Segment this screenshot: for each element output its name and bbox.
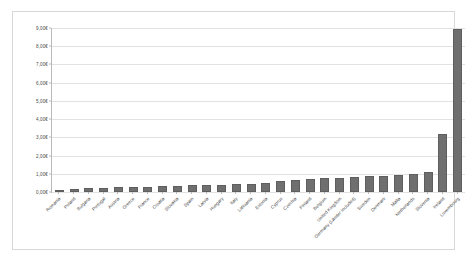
bar-slot [424, 28, 433, 192]
x-tick-mark [191, 192, 192, 194]
bar-slot [335, 28, 344, 192]
bar[interactable] [438, 134, 447, 192]
bar-slot [232, 28, 241, 192]
x-tick-mark [294, 192, 295, 194]
bar[interactable] [217, 185, 226, 192]
bar-slot [276, 28, 285, 192]
y-tick-label: 8,00€ [36, 44, 48, 49]
bar-slot [129, 28, 138, 192]
y-tick-label: 1,00€ [36, 171, 48, 176]
x-tick-mark [88, 192, 89, 194]
y-tick-label: 0,00€ [36, 190, 48, 195]
bar-slot [261, 28, 270, 192]
plot-area [51, 28, 465, 193]
bar[interactable] [335, 178, 344, 192]
bar-slot [409, 28, 418, 192]
caption-strip [150, 254, 320, 263]
bar[interactable] [424, 172, 433, 192]
bar-slot [114, 28, 123, 192]
bar-slot [247, 28, 256, 192]
bar-slot [453, 28, 462, 192]
bar[interactable] [291, 180, 300, 192]
x-tick-label: Poland [0, 196, 77, 267]
bar[interactable] [202, 185, 211, 192]
x-tick-mark [398, 192, 399, 194]
bar[interactable] [394, 175, 403, 192]
y-tick-label: 2,00€ [36, 153, 48, 158]
x-tick-mark [250, 192, 251, 194]
bar-slot [306, 28, 315, 192]
bar-slot [438, 28, 447, 192]
bar-slot [365, 28, 374, 192]
x-tick-mark [206, 192, 207, 194]
y-tick-label: 9,00€ [36, 26, 48, 31]
x-tick-mark [442, 192, 443, 194]
x-tick-mark [265, 192, 266, 194]
x-tick-mark [103, 192, 104, 194]
y-tick-label: 4,00€ [36, 117, 48, 122]
x-axis: RomaniaPolandBulgariaPortugalAustriaGree… [51, 194, 465, 262]
bar[interactable] [276, 181, 285, 192]
bar-slot [143, 28, 152, 192]
y-axis: 0,00€1,00€2,00€3,00€4,00€5,00€6,00€7,00€… [25, 28, 51, 193]
bar-slot [291, 28, 300, 192]
x-tick-mark [412, 192, 413, 194]
x-tick-mark [235, 192, 236, 194]
x-tick-mark [117, 192, 118, 194]
y-tick-label: 7,00€ [36, 62, 48, 67]
bar[interactable] [365, 176, 374, 192]
chart-frame: 0,00€1,00€2,00€3,00€4,00€5,00€6,00€7,00€… [12, 11, 455, 250]
bar-slot [70, 28, 79, 192]
x-tick-mark [353, 192, 354, 194]
bar-slot [173, 28, 182, 192]
bar-slot [84, 28, 93, 192]
bars-series [52, 28, 465, 192]
bar-slot [158, 28, 167, 192]
bar[interactable] [232, 184, 241, 192]
y-tick-label: 5,00€ [36, 98, 48, 103]
bar-slot [350, 28, 359, 192]
bar[interactable] [379, 176, 388, 192]
bar[interactable] [409, 174, 418, 192]
gridline [52, 192, 465, 193]
x-tick-mark [383, 192, 384, 194]
y-tick-label: 6,00€ [36, 80, 48, 85]
x-tick-mark [147, 192, 148, 194]
bar-slot [99, 28, 108, 192]
x-tick-mark [58, 192, 59, 194]
x-tick-mark [457, 192, 458, 194]
bar-chart-figure: 0,00€1,00€2,00€3,00€4,00€5,00€6,00€7,00€… [0, 0, 466, 267]
bar-slot [320, 28, 329, 192]
bar-slot [217, 28, 226, 192]
x-tick-mark [221, 192, 222, 194]
bar-slot [394, 28, 403, 192]
x-tick-mark [339, 192, 340, 194]
bar[interactable] [247, 184, 256, 192]
bar-slot [55, 28, 64, 192]
x-tick-mark [324, 192, 325, 194]
x-tick-mark [280, 192, 281, 194]
bar[interactable] [350, 177, 359, 192]
x-tick-mark [162, 192, 163, 194]
bar[interactable] [306, 179, 315, 192]
bar-slot [379, 28, 388, 192]
y-tick-label: 3,00€ [36, 135, 48, 140]
x-tick-mark [309, 192, 310, 194]
x-tick-mark [176, 192, 177, 194]
x-tick-mark [73, 192, 74, 194]
bar-slot [188, 28, 197, 192]
bar[interactable] [320, 178, 329, 192]
bar[interactable] [453, 29, 462, 192]
x-tick-mark [132, 192, 133, 194]
x-tick-mark [368, 192, 369, 194]
bar-slot [202, 28, 211, 192]
x-tick-mark [427, 192, 428, 194]
bar[interactable] [261, 183, 270, 192]
